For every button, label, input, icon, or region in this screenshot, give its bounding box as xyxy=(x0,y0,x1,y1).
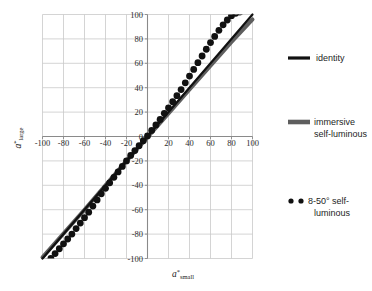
data-point xyxy=(203,46,210,53)
data-point xyxy=(115,168,122,175)
legend-label-immersive-line1: immersive xyxy=(314,117,355,127)
data-point xyxy=(148,127,155,134)
y-tick-label: -80 xyxy=(132,229,143,239)
x-tick-label: 20 xyxy=(164,138,173,148)
data-point xyxy=(169,98,176,105)
data-point xyxy=(144,132,151,139)
legend-swatch-dot-1 xyxy=(288,198,293,203)
data-point xyxy=(94,197,101,204)
y-tick-label: -40 xyxy=(132,180,143,190)
legend-label-8-50-line1: 8-50° self- xyxy=(308,196,349,206)
chart-root: -100-80-60-40-2020406080100-100-80-60-40… xyxy=(0,0,372,291)
data-point xyxy=(123,158,130,165)
data-point xyxy=(182,79,189,86)
data-point xyxy=(186,73,193,80)
data-point xyxy=(165,104,172,111)
y-tick-label: 60 xyxy=(135,58,144,68)
chart-canvas: -100-80-60-40-2020406080100-100-80-60-40… xyxy=(0,0,372,291)
data-point xyxy=(77,220,84,227)
legend-label-identity: identity xyxy=(316,53,345,63)
y-tick-label: 20 xyxy=(135,107,144,117)
y-tick-label: 100 xyxy=(130,10,143,20)
y-tick-label: 40 xyxy=(135,83,144,93)
data-point xyxy=(153,122,160,129)
data-point xyxy=(98,190,105,197)
data-point xyxy=(207,39,214,46)
data-point xyxy=(178,86,185,93)
data-point xyxy=(216,27,223,34)
data-point xyxy=(102,185,109,192)
x-tick-label: 80 xyxy=(227,138,236,148)
data-point xyxy=(157,116,164,123)
data-point xyxy=(111,174,118,181)
x-tick-label: 100 xyxy=(246,138,259,148)
scatter-plot: -100-80-60-40-2020406080100-100-80-60-40… xyxy=(0,0,372,291)
data-point xyxy=(119,163,126,170)
data-point xyxy=(106,179,113,186)
data-point xyxy=(199,53,206,60)
legend-label-immersive-line2: self-luminous xyxy=(314,129,368,139)
x-tick-label: -20 xyxy=(121,138,132,148)
data-point xyxy=(195,59,202,66)
data-point xyxy=(190,66,197,73)
data-point xyxy=(90,203,97,210)
data-point xyxy=(161,110,168,117)
x-tick-label: -60 xyxy=(79,138,90,148)
legend-swatch-dot-2 xyxy=(298,198,303,203)
data-point xyxy=(69,231,76,238)
data-point xyxy=(85,209,92,216)
x-tick-label: 60 xyxy=(206,138,215,148)
data-point xyxy=(81,214,88,221)
legend-label-8-50-line2: luminous xyxy=(314,208,351,218)
y-tick-label: 80 xyxy=(135,34,144,44)
data-point xyxy=(211,33,218,40)
y-tick-label: -60 xyxy=(132,205,143,215)
x-tick-label: -100 xyxy=(35,138,51,148)
x-tick-label: -40 xyxy=(100,138,111,148)
x-tick-label: 40 xyxy=(185,138,194,148)
data-point xyxy=(73,225,80,232)
y-tick-label: -100 xyxy=(127,254,143,264)
data-point xyxy=(174,92,181,99)
x-tick-label: -80 xyxy=(58,138,69,148)
